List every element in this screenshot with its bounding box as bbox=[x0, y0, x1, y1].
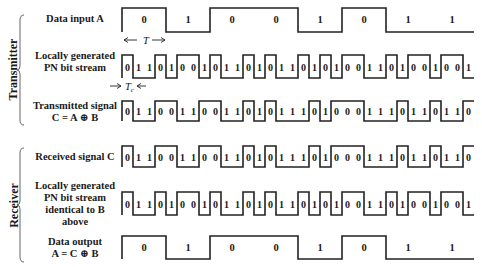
bit-value: 1 bbox=[257, 199, 262, 210]
bit-value: 0 bbox=[246, 199, 251, 210]
bit-value: 0 bbox=[180, 62, 185, 73]
bit-value: 0 bbox=[361, 14, 366, 25]
bit-value: 1 bbox=[202, 62, 207, 73]
bit-value: 1 bbox=[312, 62, 317, 73]
bit-value: 0 bbox=[345, 62, 350, 73]
bit-value: 0 bbox=[301, 199, 306, 210]
bit-value: 1 bbox=[367, 199, 372, 210]
bit-value: 1 bbox=[400, 199, 405, 210]
bit-value: 1 bbox=[334, 199, 339, 210]
bit-value: 1 bbox=[279, 199, 284, 210]
bit-value: 0 bbox=[141, 14, 146, 25]
bit-value: 0 bbox=[213, 152, 218, 163]
bit-value: 0 bbox=[389, 199, 394, 210]
bit-value: 0 bbox=[125, 199, 130, 210]
bit-value: 0 bbox=[356, 106, 361, 117]
bit-value: 1 bbox=[367, 62, 372, 73]
spread-spectrum-diagram: 0100101101101001011010110101001101001001… bbox=[0, 0, 482, 267]
transmitter-brace bbox=[17, 15, 24, 125]
bit-value: 0 bbox=[273, 242, 278, 253]
bit-value: 1 bbox=[323, 106, 328, 117]
bit-value: 1 bbox=[257, 106, 262, 117]
bit-value: 1 bbox=[290, 199, 295, 210]
bit-value: 1 bbox=[147, 62, 152, 73]
bit-value: 1 bbox=[235, 62, 240, 73]
bit-value: 1 bbox=[422, 152, 427, 163]
bit-value: 0 bbox=[268, 62, 273, 73]
bit-value: 1 bbox=[147, 106, 152, 117]
bit-value: 0 bbox=[202, 106, 207, 117]
bit-value: 1 bbox=[378, 106, 383, 117]
bit-value: 1 bbox=[147, 152, 152, 163]
bit-value: 0 bbox=[125, 106, 130, 117]
bit-value: 1 bbox=[466, 62, 471, 73]
bit-value: 1 bbox=[136, 106, 141, 117]
bit-value: 1 bbox=[433, 199, 438, 210]
bit-value: 0 bbox=[246, 106, 251, 117]
bit-value: 1 bbox=[136, 152, 141, 163]
bit-value: 1 bbox=[433, 62, 438, 73]
bit-value: 1 bbox=[449, 242, 454, 253]
bit-value: 0 bbox=[169, 152, 174, 163]
bit-value: 0 bbox=[455, 199, 460, 210]
bit-value: 0 bbox=[169, 106, 174, 117]
bit-value: 1 bbox=[147, 199, 152, 210]
bit-value: 0 bbox=[411, 62, 416, 73]
bit-value: 1 bbox=[290, 106, 295, 117]
bit-value: 0 bbox=[180, 199, 185, 210]
bit-value: 0 bbox=[411, 199, 416, 210]
bit-period-label: T bbox=[143, 35, 150, 46]
bit-value: 1 bbox=[224, 106, 229, 117]
bit-value: 0 bbox=[125, 62, 130, 73]
bit-value: 1 bbox=[180, 152, 185, 163]
bit-value: 0 bbox=[323, 199, 328, 210]
bit-value: 1 bbox=[235, 106, 240, 117]
bit-value: 1 bbox=[136, 199, 141, 210]
bit-value: 0 bbox=[356, 152, 361, 163]
bit-value: 1 bbox=[317, 14, 322, 25]
bit-value: 1 bbox=[312, 199, 317, 210]
bit-value: 0 bbox=[301, 62, 306, 73]
bit-value: 0 bbox=[213, 106, 218, 117]
bit-value: 0 bbox=[125, 152, 130, 163]
bit-value: 1 bbox=[455, 106, 460, 117]
bit-value: 0 bbox=[345, 106, 350, 117]
bit-value: 0 bbox=[422, 62, 427, 73]
bit-value: 1 bbox=[202, 199, 207, 210]
bit-value: 1 bbox=[378, 152, 383, 163]
bit-value: 1 bbox=[290, 62, 295, 73]
bit-value: 1 bbox=[455, 152, 460, 163]
bit-value: 0 bbox=[141, 242, 146, 253]
bit-value: 0 bbox=[400, 106, 405, 117]
bit-value: 0 bbox=[268, 152, 273, 163]
bit-value: 1 bbox=[334, 62, 339, 73]
bit-value: 0 bbox=[323, 62, 328, 73]
bit-value: 0 bbox=[213, 62, 218, 73]
bit-value: 0 bbox=[158, 106, 163, 117]
bit-value: 0 bbox=[466, 152, 471, 163]
bit-value: 0 bbox=[202, 152, 207, 163]
bit-value: 1 bbox=[169, 199, 174, 210]
bit-value: 0 bbox=[158, 62, 163, 73]
bit-value: 0 bbox=[444, 199, 449, 210]
data-output-waveform bbox=[122, 236, 474, 259]
bit-value: 1 bbox=[378, 199, 383, 210]
bit-value: 0 bbox=[312, 152, 317, 163]
bit-value: 1 bbox=[169, 62, 174, 73]
bit-value: 1 bbox=[279, 62, 284, 73]
chip-period-annotation: Tc bbox=[110, 81, 146, 94]
bit-value: 1 bbox=[323, 152, 328, 163]
bit-value: 0 bbox=[268, 199, 273, 210]
bit-value: 1 bbox=[185, 242, 190, 253]
bit-value: 0 bbox=[422, 199, 427, 210]
bit-value: 0 bbox=[400, 152, 405, 163]
bit-value: 1 bbox=[235, 199, 240, 210]
bit-value: 1 bbox=[257, 152, 262, 163]
bit-value: 0 bbox=[356, 62, 361, 73]
bit-value: 1 bbox=[224, 199, 229, 210]
receiver-brace bbox=[17, 148, 24, 262]
bit-value: 1 bbox=[367, 152, 372, 163]
bit-value: 0 bbox=[334, 152, 339, 163]
bit-value: 1 bbox=[422, 106, 427, 117]
bit-value: 1 bbox=[400, 62, 405, 73]
